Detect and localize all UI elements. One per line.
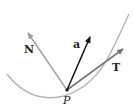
point-p-dot xyxy=(65,88,68,91)
label-n: N xyxy=(24,43,34,56)
normal-vector-arrow xyxy=(28,33,67,90)
label-p: P xyxy=(62,94,71,107)
diagram-canvas: N a T P xyxy=(0,0,134,108)
label-t: T xyxy=(112,61,121,74)
label-a: a xyxy=(73,38,80,51)
